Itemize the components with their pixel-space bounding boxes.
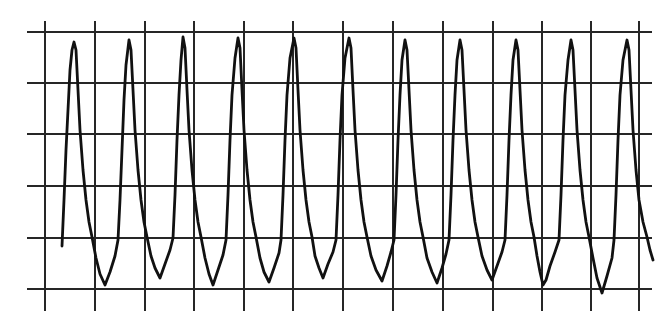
waveform-chart xyxy=(0,0,669,327)
